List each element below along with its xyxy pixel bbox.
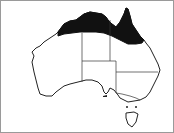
kangaroo-island: [103, 95, 107, 97]
bass-strait-island: [126, 106, 128, 108]
bass-strait-island: [135, 106, 137, 108]
tasmania-outline: [126, 112, 138, 127]
australia-map: [0, 0, 174, 133]
